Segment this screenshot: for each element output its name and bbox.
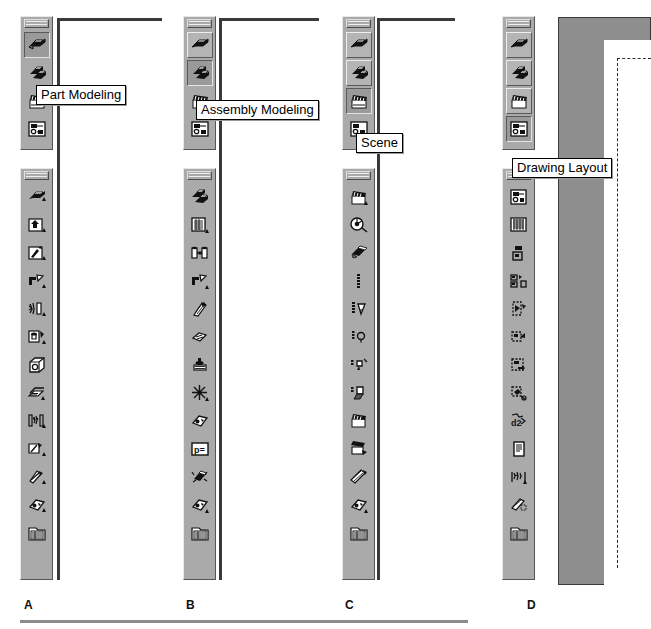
mode-button-assembly-modeling[interactable] xyxy=(24,60,50,86)
tool-button-surface[interactable] xyxy=(187,492,213,518)
tool-button-create-component[interactable] xyxy=(187,212,213,238)
part-modeling-toolbar[interactable] xyxy=(20,168,53,580)
document-window-top-edge xyxy=(377,18,455,21)
tool-button-simulate[interactable] xyxy=(187,464,213,490)
toolbar-grip[interactable] xyxy=(506,19,531,28)
tool-button-point-light[interactable] xyxy=(346,324,372,350)
tool-button-projected-view[interactable] xyxy=(506,268,532,294)
tool-button-browser[interactable] xyxy=(346,520,372,546)
tool-button-surface[interactable] xyxy=(506,492,532,518)
tool-button-animation-timeline[interactable] xyxy=(346,464,372,490)
tooltip-drawing-layout: Drawing Layout xyxy=(512,158,612,178)
screenshot-root: { "page": { "width": 651, "height": 629,… xyxy=(0,0,651,629)
tool-button-render[interactable] xyxy=(346,436,372,462)
tool-button-surface-style[interactable] xyxy=(346,240,372,266)
tool-button-sketch[interactable] xyxy=(24,184,50,210)
tool-button-rib[interactable] xyxy=(24,380,50,406)
tool-button-camera[interactable] xyxy=(346,212,372,238)
document-window-top-edge xyxy=(219,18,319,21)
mode-button-assembly-modeling[interactable] xyxy=(506,60,532,86)
document-window-left-edge xyxy=(377,18,380,580)
mode-toolbar-a[interactable] xyxy=(20,16,53,150)
tool-button-fillet[interactable] xyxy=(24,436,50,462)
mode-button-drawing-layout[interactable] xyxy=(24,116,50,142)
tool-button-balloon[interactable] xyxy=(506,436,532,462)
tool-button-pattern-component[interactable] xyxy=(187,296,213,322)
tool-button-sheet[interactable] xyxy=(506,212,532,238)
tool-button-loft[interactable] xyxy=(24,296,50,322)
tool-button-constraint[interactable] xyxy=(187,240,213,266)
tool-button-browser[interactable] xyxy=(24,520,50,546)
tool-button-directional-light[interactable] xyxy=(346,352,372,378)
panel-caption-b: B xyxy=(186,598,195,612)
toolbar-grip[interactable] xyxy=(24,19,49,28)
tool-button-section-view[interactable] xyxy=(506,296,532,322)
drawing-sheet-border xyxy=(617,58,651,568)
tool-button-surface[interactable] xyxy=(346,492,372,518)
mode-toolbar-d[interactable] xyxy=(502,16,535,150)
tool-button-parameters[interactable]: p= xyxy=(187,436,213,462)
bottom-divider-rule xyxy=(20,620,468,623)
panel-caption-c: C xyxy=(345,598,354,612)
tool-button-spot-light[interactable] xyxy=(346,296,372,322)
tool-button-shell[interactable] xyxy=(24,352,50,378)
tooltip-part-modeling: Part Modeling xyxy=(36,85,126,105)
tool-button-hatch[interactable] xyxy=(506,464,532,490)
tool-button-surface[interactable] xyxy=(24,492,50,518)
tool-button-extrude[interactable] xyxy=(24,212,50,238)
tool-button-detail-view[interactable] xyxy=(506,324,532,350)
tool-button-sweep[interactable] xyxy=(24,268,50,294)
mode-button-assembly-modeling[interactable] xyxy=(187,60,213,86)
tool-button-shadow[interactable] xyxy=(346,380,372,406)
svg-text:p=: p= xyxy=(194,445,205,455)
tool-button-drawing-layout[interactable] xyxy=(506,184,532,210)
mode-toolbar-b[interactable] xyxy=(183,16,216,150)
tool-button-revolve[interactable] xyxy=(24,240,50,266)
tool-button-replace-component[interactable] xyxy=(187,268,213,294)
mode-button-part-modeling[interactable] xyxy=(346,32,372,58)
toolbar-grip[interactable] xyxy=(24,171,49,180)
toolbar-grip[interactable] xyxy=(187,171,212,180)
panel-caption-d: D xyxy=(527,598,536,612)
tooltip-assembly-modeling: Assembly Modeling xyxy=(196,100,319,120)
tool-button-pattern[interactable] xyxy=(24,408,50,434)
tool-button-notes[interactable]: d2 xyxy=(506,408,532,434)
tool-button-animate-camera[interactable] xyxy=(346,408,372,434)
tool-button-broken-view[interactable] xyxy=(506,352,532,378)
panel-caption-a: A xyxy=(24,598,33,612)
tool-button-browser[interactable] xyxy=(187,520,213,546)
tool-button-parts-list[interactable] xyxy=(506,520,532,546)
tool-button-place-component[interactable] xyxy=(187,184,213,210)
tool-button-dimension[interactable] xyxy=(506,380,532,406)
tool-button-chamfer[interactable] xyxy=(24,464,50,490)
tooltip-scene: Scene xyxy=(356,133,403,153)
toolbar-grip[interactable] xyxy=(187,19,212,28)
mode-button-scene[interactable] xyxy=(346,88,372,114)
tool-button-hole[interactable] xyxy=(24,324,50,350)
mode-button-scene[interactable] xyxy=(506,88,532,114)
mode-toolbar-c[interactable] xyxy=(342,16,375,150)
tool-button-explode[interactable] xyxy=(187,380,213,406)
assembly-modeling-toolbar[interactable]: p= xyxy=(183,168,216,580)
document-window-top-edge xyxy=(57,18,162,21)
tool-button-lighting[interactable] xyxy=(346,268,372,294)
tool-button-analysis[interactable] xyxy=(187,408,213,434)
mode-button-drawing-layout[interactable] xyxy=(506,116,532,142)
tool-button-move-component[interactable] xyxy=(187,324,213,350)
tool-button-base-view[interactable] xyxy=(506,240,532,266)
mode-button-part-modeling[interactable] xyxy=(187,32,213,58)
toolbar-grip[interactable] xyxy=(346,19,371,28)
toolbar-grip[interactable] xyxy=(346,171,371,180)
scene-toolbar[interactable] xyxy=(342,168,375,580)
tool-button-weld[interactable] xyxy=(187,352,213,378)
mode-button-part-modeling[interactable] xyxy=(506,32,532,58)
svg-text:d2: d2 xyxy=(511,418,522,428)
drawing-layout-toolbar[interactable]: d2 xyxy=(502,168,535,580)
mode-button-assembly-modeling[interactable] xyxy=(346,60,372,86)
mode-button-part-modeling[interactable] xyxy=(24,32,50,58)
tool-button-scene[interactable] xyxy=(346,184,372,210)
